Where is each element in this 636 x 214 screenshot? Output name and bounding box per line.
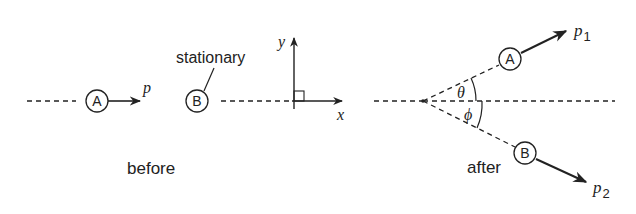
phi-arc [477, 101, 482, 128]
p1-arrow [521, 31, 566, 53]
before-panel: A p B stationary x y before [27, 33, 344, 178]
ball-b-after-label: B [520, 145, 529, 161]
p2-label: p2 [592, 178, 610, 201]
ball-b-before-label: B [192, 93, 201, 109]
p1-label: p1 [573, 21, 591, 44]
phi-label: ϕ [464, 106, 472, 124]
after-caption: after [467, 158, 501, 177]
stationary-label: stationary [176, 49, 245, 66]
stationary-pointer [204, 68, 214, 91]
ball-a-after-label: A [505, 51, 515, 67]
ball-a-before-label: A [92, 93, 102, 109]
x-axis-label: x [336, 106, 344, 123]
before-caption: before [127, 159, 175, 178]
collision-diagram: A p B stationary x y before A p1 B p2 θ … [0, 0, 636, 214]
y-axis-label: y [276, 33, 286, 51]
after-panel: A p1 B p2 θ ϕ after [374, 21, 615, 201]
theta-arc [471, 78, 476, 101]
theta-label: θ [457, 84, 465, 101]
right-angle-marker [294, 91, 304, 101]
p2-arrow [536, 159, 586, 182]
momentum-label: p [142, 79, 151, 97]
